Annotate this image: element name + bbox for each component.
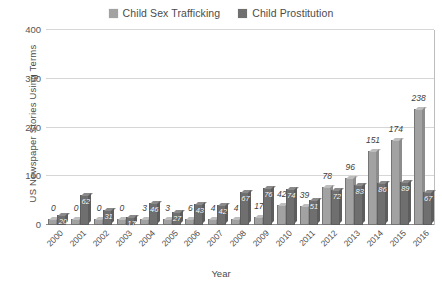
bar-2008-dark[interactable]: 67 [240, 30, 249, 225]
bar-2001-light[interactable]: 0 [71, 30, 80, 225]
bar-group-2000: 020 [46, 30, 69, 225]
bar-group-2007: 442 [206, 30, 229, 225]
bar-group-2006: 643 [183, 30, 206, 225]
x-tick-cell-2006: 2006 [183, 226, 206, 266]
bar-2003-light[interactable]: 0 [117, 30, 126, 225]
bar-2001-dark[interactable]: 62 [80, 30, 89, 225]
bar-body: 76 [263, 188, 272, 225]
bar-body: 27 [172, 212, 181, 225]
bar-2002-light[interactable]: 0 [94, 30, 103, 225]
x-tick-label-2000: 2000 [45, 228, 65, 248]
bar-2002-dark[interactable]: 31 [103, 30, 112, 225]
x-tick-label-2008: 2008 [228, 228, 248, 248]
bar-chart: Child Sex Trafficking Child Prostitution… [0, 0, 442, 286]
bar-group-2008: 467 [229, 30, 252, 225]
bar-body [94, 219, 103, 225]
bar-body: 89 [400, 182, 409, 225]
bar-value-label-inner: 43 [194, 207, 205, 215]
bar-body: 151 [368, 151, 377, 225]
bar-body [322, 187, 331, 225]
bar-2013-light[interactable]: 9696 [345, 30, 354, 225]
x-tick-cell-2009: 2009 [251, 226, 274, 266]
bar-2004-light[interactable]: 3 [140, 30, 149, 225]
bar-2011-light[interactable]: 39 [300, 30, 309, 225]
bar-2007-dark[interactable]: 42 [217, 30, 226, 225]
bar-body: 86 [377, 183, 386, 225]
x-tick-label-2012: 2012 [319, 228, 339, 248]
bar-body [163, 219, 172, 225]
legend-label-child-sex-trafficking: Child Sex Trafficking [123, 7, 221, 19]
bar-body: 238 [414, 109, 423, 225]
bar-2016-dark[interactable]: 67 [423, 30, 432, 225]
bar-groups: 0200620310173463276434424671776427439517… [46, 30, 434, 225]
bar-body [117, 219, 126, 225]
bar-body: 20 [57, 215, 66, 225]
bar-2006-light[interactable]: 6 [185, 30, 194, 225]
bar-body: 46 [149, 203, 158, 225]
bar-group-2016: 23823867 [411, 30, 434, 225]
bar-body: 43 [194, 204, 203, 225]
bar-value-label-inner: 31 [103, 213, 114, 221]
bar-2005-dark[interactable]: 27 [172, 30, 181, 225]
bar-2010-dark[interactable]: 74 [286, 30, 295, 225]
bar-value-label-inner: 83 [354, 188, 365, 196]
bar-body [185, 219, 194, 225]
bar-2005-light[interactable]: 3 [163, 30, 172, 225]
x-tick-label-2013: 2013 [342, 228, 362, 248]
bar-value-label-inner: 42 [217, 208, 228, 216]
bar-body [48, 219, 57, 225]
bar-body [231, 219, 240, 225]
bar-body: 51 [309, 200, 318, 225]
bar-value-label-inner: 86 [377, 186, 388, 194]
bar-2012-dark[interactable]: 72 [331, 30, 340, 225]
bar-2012-light[interactable]: 78 [322, 30, 331, 225]
bar-body: 96 [345, 178, 354, 225]
bar-2009-dark[interactable]: 76 [263, 30, 272, 225]
bar-2007-light[interactable]: 4 [208, 30, 217, 225]
bar-2010-light[interactable]: 42 [277, 30, 286, 225]
bar-body [300, 206, 309, 225]
bar-group-2003: 017 [114, 30, 137, 225]
legend-item-child-sex-trafficking[interactable]: Child Sex Trafficking [109, 7, 221, 19]
x-tick-cell-2002: 2002 [92, 226, 115, 266]
x-tick-label-2005: 2005 [159, 228, 179, 248]
x-tick-cell-2003: 2003 [114, 226, 137, 266]
bar-value-label-inner: 20 [57, 218, 68, 226]
bar-2014-light[interactable]: 151151 [368, 30, 377, 225]
legend-swatch-child-prostitution [238, 9, 247, 18]
x-tick-label-2003: 2003 [113, 228, 133, 248]
bar-value-label-inner: 89 [400, 185, 411, 193]
bar-value-label-inner: 46 [149, 206, 160, 214]
legend-label-child-prostitution: Child Prostitution [252, 7, 333, 19]
bar-2011-dark[interactable]: 51 [309, 30, 318, 225]
bar-2016-light[interactable]: 238238 [414, 30, 423, 225]
x-tick-cell-2011: 2011 [297, 226, 320, 266]
bar-group-2002: 031 [92, 30, 115, 225]
x-tick-label-2001: 2001 [68, 228, 88, 248]
bar-group-2010: 4274 [274, 30, 297, 225]
bar-body: 74 [286, 189, 295, 225]
bar-body: 31 [103, 210, 112, 225]
x-tick-label-2016: 2016 [410, 228, 430, 248]
bar-2003-dark[interactable]: 17 [126, 30, 135, 225]
x-tick-label-2006: 2006 [182, 228, 202, 248]
bar-2004-dark[interactable]: 46 [149, 30, 158, 225]
x-tick-label-2015: 2015 [387, 228, 407, 248]
bar-2015-light[interactable]: 174174 [391, 30, 400, 225]
bar-2006-dark[interactable]: 43 [194, 30, 203, 225]
x-tick-cell-2008: 2008 [229, 226, 252, 266]
bar-group-2009: 1776 [251, 30, 274, 225]
bar-2009-light[interactable]: 17 [254, 30, 263, 225]
bar-2000-light[interactable]: 0 [48, 30, 57, 225]
bar-2015-dark[interactable]: 89 [400, 30, 409, 225]
bar-2008-light[interactable]: 4 [231, 30, 240, 225]
bar-group-2004: 346 [137, 30, 160, 225]
legend-item-child-prostitution[interactable]: Child Prostitution [238, 7, 333, 19]
bar-value-label-inner: 62 [80, 198, 91, 206]
bar-group-2001: 062 [69, 30, 92, 225]
bar-body: 174 [391, 140, 400, 225]
bar-2013-dark[interactable]: 83 [354, 30, 363, 225]
bar-value-label-inner: 76 [263, 191, 274, 199]
bar-2000-dark[interactable]: 20 [57, 30, 66, 225]
y-tick-label-0: 0 [36, 219, 41, 230]
